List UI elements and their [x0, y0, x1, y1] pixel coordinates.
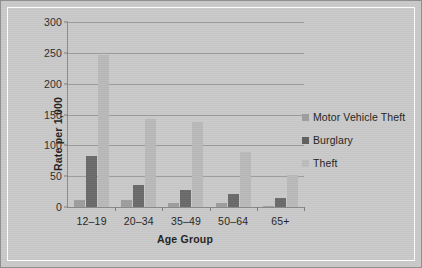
x-tick-label: 20–34	[124, 215, 154, 227]
bar-cluster	[257, 22, 304, 207]
bar	[228, 194, 239, 207]
legend-swatch-icon	[302, 160, 309, 167]
bar	[263, 206, 274, 207]
x-tick-label: 12–19	[76, 215, 106, 227]
legend-swatch-icon	[302, 137, 309, 144]
y-tick-label: 300	[44, 16, 62, 28]
bar	[145, 119, 156, 207]
bar	[86, 156, 97, 207]
y-tick-label: 0	[56, 201, 62, 213]
y-tick-label: 150	[44, 109, 62, 121]
x-tick-mark	[115, 207, 116, 211]
y-tick-label: 50	[50, 170, 62, 182]
bar	[133, 185, 144, 207]
legend-item: Burglary	[302, 130, 405, 150]
chart-legend: Motor Vehicle TheftBurglaryTheft	[302, 107, 405, 176]
x-tick-mark	[257, 207, 258, 211]
x-axis-title: Age Group	[67, 233, 303, 245]
legend-item: Theft	[302, 153, 405, 173]
y-tick-label: 200	[44, 78, 62, 90]
legend-swatch-icon	[302, 114, 309, 121]
bar-cluster	[68, 22, 115, 207]
x-tick-label: 65+	[271, 215, 289, 227]
bar	[98, 55, 109, 207]
y-tick-label: 100	[44, 139, 62, 151]
bar	[74, 200, 85, 207]
legend-label: Motor Vehicle Theft	[313, 111, 405, 123]
legend-label: Burglary	[313, 134, 353, 146]
legend-item: Motor Vehicle Theft	[302, 107, 405, 127]
legend-label: Theft	[313, 157, 337, 169]
bar-chart-figure: Rate per 1,000 05010015020025030012–1920…	[0, 0, 422, 268]
x-tick-label: 50–64	[218, 215, 248, 227]
x-tick-mark	[162, 207, 163, 211]
bar	[275, 198, 286, 207]
bar	[168, 203, 179, 207]
y-tick-label: 250	[44, 47, 62, 59]
bar-cluster	[162, 22, 209, 207]
x-tick-mark	[304, 207, 305, 211]
bar	[240, 152, 251, 207]
x-tick-mark	[210, 207, 211, 211]
bar	[192, 122, 203, 207]
bar-cluster	[210, 22, 257, 207]
bar-cluster	[115, 22, 162, 207]
x-tick-label: 35–49	[171, 215, 201, 227]
bar	[121, 200, 132, 207]
bar	[287, 175, 298, 207]
plot-area: 05010015020025030012–1920–3435–4950–6465…	[67, 22, 304, 208]
bar	[216, 203, 227, 207]
bar	[180, 190, 191, 207]
